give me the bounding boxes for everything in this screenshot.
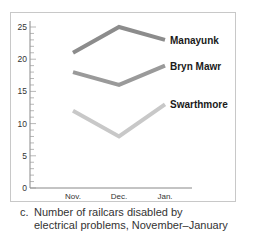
series-line-bryn-mawr (73, 66, 165, 85)
caption-letter: c. (20, 206, 29, 219)
series-label: Manayunk (170, 35, 219, 46)
series-lines (73, 27, 165, 136)
x-tick-label: Jan. (157, 192, 172, 201)
series-line-swarthmore (73, 104, 165, 136)
caption-line-1: Number of railcars disabled by (34, 206, 254, 219)
x-tick-label: Dec. (111, 192, 127, 201)
y-tick-label: 25 (18, 22, 28, 32)
y-tick-label: 5 (22, 151, 27, 161)
y-tick-label: 0 (22, 183, 27, 193)
line-chart: 0510152025Nov.Dec.Jan. ManayunkBryn Mawr… (0, 0, 254, 205)
y-tick-label: 10 (18, 119, 28, 129)
series-labels: ManayunkBryn MawrSwarthmore (170, 35, 228, 110)
y-tick-label: 20 (18, 54, 28, 64)
x-tick-label: Nov. (65, 192, 81, 201)
series-label: Swarthmore (170, 99, 228, 110)
series-label: Bryn Mawr (170, 61, 221, 72)
axes: 0510152025Nov.Dec.Jan. (18, 21, 192, 201)
caption-line-2: electrical problems, November–January (34, 219, 254, 232)
y-tick-label: 15 (18, 86, 28, 96)
series-line-manayunk (73, 27, 165, 53)
